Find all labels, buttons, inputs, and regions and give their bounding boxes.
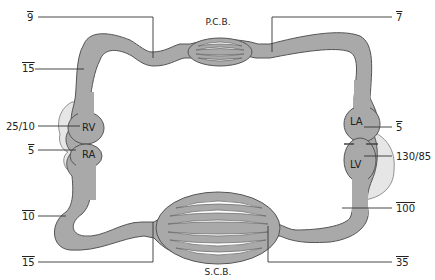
pcb-label: P.C.B. <box>205 17 230 27</box>
pressure-lv: 130/85 <box>396 151 431 162</box>
lv-label: LV <box>350 159 361 170</box>
pressure-15-bottom: 15 <box>22 257 35 268</box>
left-atrium-inflow <box>354 80 370 110</box>
pressure-15-top: 15 <box>22 63 35 74</box>
pressure-100: 100 <box>396 203 415 214</box>
circulation-diagram: P.C.B. S.C.B. RV RA LA LV 9 15 7 25/10 5… <box>0 0 435 280</box>
pressure-la: 5 <box>396 122 402 133</box>
pressure-7: 7 <box>396 12 402 23</box>
la-label: LA <box>350 116 363 127</box>
scb-label: S.C.B. <box>205 267 232 277</box>
right-ventricle-outflow <box>78 92 94 116</box>
pressure-rv: 25/10 <box>6 121 35 132</box>
pulmonary-capillary-bed <box>188 38 252 66</box>
systemic-capillary-bed <box>156 192 280 264</box>
pressure-35: 35 <box>396 257 409 268</box>
rv-label: RV <box>82 122 95 133</box>
pressure-9: 9 <box>27 12 33 23</box>
right-atrium-outflow <box>76 160 96 200</box>
ra-label: RA <box>82 149 96 160</box>
pressure-ra: 5 <box>28 145 34 156</box>
pressure-10: 10 <box>22 211 35 222</box>
left-ventricle-outflow <box>352 176 368 216</box>
